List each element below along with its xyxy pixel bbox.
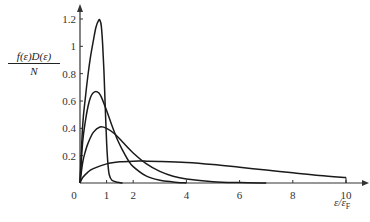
y-axis-label: f(ε)D(ε) N xyxy=(8,50,60,77)
x-tick-label: 4 xyxy=(184,189,190,201)
chart-plot: 012468100.20.40.60.811.2 xyxy=(0,0,370,222)
y-tick-label: 0.2 xyxy=(62,150,76,162)
curves xyxy=(80,20,346,183)
y-axis-label-numerator: f(ε)D(ε) xyxy=(8,50,60,64)
series-curve-4 xyxy=(80,161,346,183)
x-axis-label-sub: F xyxy=(346,202,350,211)
series-curve-2 xyxy=(80,91,186,183)
x-tick-label: 6 xyxy=(237,189,243,201)
x-axis-label-main: ε/ε xyxy=(334,196,346,208)
x-tick-label: 0 xyxy=(71,189,77,201)
x-axis-arrow-icon xyxy=(362,180,369,186)
x-tick-label: 8 xyxy=(290,189,296,201)
y-tick-label: 0.4 xyxy=(62,122,76,134)
y-tick-label: 0.8 xyxy=(62,68,76,80)
y-tick-label: 1 xyxy=(71,40,77,52)
y-axis-label-denominator: N xyxy=(8,64,60,77)
y-axis-arrow-icon xyxy=(77,4,83,12)
axes xyxy=(77,4,369,186)
y-tick-label: 0.6 xyxy=(62,95,76,107)
x-tick-label: 1 xyxy=(104,189,110,201)
y-tick-label: 1.2 xyxy=(62,13,76,25)
x-axis-label: ε/εF xyxy=(334,196,350,211)
x-tick-label: 2 xyxy=(130,189,136,201)
series-curve-1 xyxy=(80,20,123,183)
